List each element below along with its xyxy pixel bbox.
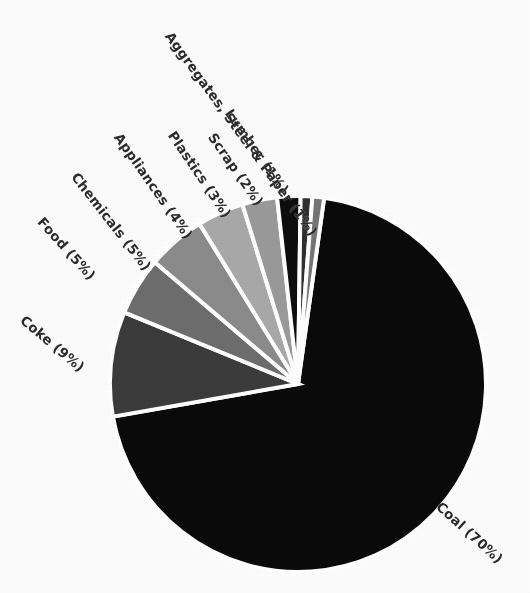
pie-slice-group bbox=[110, 196, 486, 572]
pie-chart-figure: Coal (70%)Coke (9%)Food (5%)Chemicals (5… bbox=[0, 0, 530, 593]
